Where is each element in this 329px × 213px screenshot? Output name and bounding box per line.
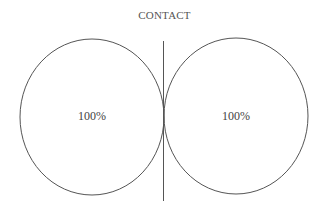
right-circle-label: 100% <box>206 109 266 124</box>
contact-diagram <box>0 0 329 213</box>
left-circle-label: 100% <box>62 109 122 124</box>
